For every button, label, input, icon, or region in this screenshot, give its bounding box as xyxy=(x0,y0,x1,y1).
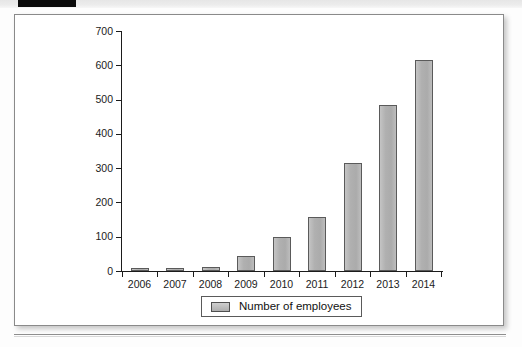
y-axis-tick-label-text: 600 xyxy=(73,60,113,71)
x-axis-tick-label: 2007 xyxy=(155,279,195,290)
y-axis-tick xyxy=(116,271,121,272)
y-axis-tick-label-text: 300 xyxy=(73,163,113,174)
y-axis-tick-label: 300 xyxy=(67,163,113,174)
y-axis-tick-label: 0 xyxy=(67,266,113,277)
x-axis-tick-label: 2013 xyxy=(368,279,408,290)
bar xyxy=(202,267,220,271)
y-axis-tick-label-text: 0 xyxy=(73,266,113,277)
x-axis-tick-label: 2009 xyxy=(226,279,266,290)
x-axis-tick xyxy=(228,272,229,277)
bar xyxy=(273,237,291,271)
x-axis-tick xyxy=(335,272,336,277)
y-axis-tick xyxy=(116,100,121,101)
x-axis-tick-label: 2011 xyxy=(297,279,337,290)
x-axis-tick xyxy=(122,272,123,277)
bar xyxy=(166,268,184,271)
x-axis-tick xyxy=(264,272,265,277)
y-axis-tick-label: 400 xyxy=(67,128,113,139)
bar xyxy=(131,268,149,271)
x-axis-tick-label: 2008 xyxy=(191,279,231,290)
y-axis-tick xyxy=(116,134,121,135)
y-axis-tick-label-text: 500 xyxy=(73,94,113,105)
x-axis-tick xyxy=(193,272,194,277)
x-axis-tick-label: 2012 xyxy=(333,279,373,290)
page-footer-rule-shadow xyxy=(14,336,506,337)
y-axis-tick-label: 700 xyxy=(67,26,113,37)
bar xyxy=(379,105,397,271)
x-axis-tick xyxy=(299,272,300,277)
x-axis-tick xyxy=(441,272,442,277)
x-axis-tick-label: 2014 xyxy=(404,279,444,290)
y-axis-tick-label-text: 200 xyxy=(73,197,113,208)
y-axis-tick xyxy=(116,168,121,169)
x-axis-tick xyxy=(157,272,158,277)
bar xyxy=(415,60,433,271)
y-axis-tick-label-text: 400 xyxy=(73,128,113,139)
x-axis-line xyxy=(121,271,443,272)
chart-frame: 0100200300400500600700 20062007200820092… xyxy=(14,14,504,326)
x-axis-tick-label: 2010 xyxy=(262,279,302,290)
y-axis-line xyxy=(121,31,122,272)
bar xyxy=(308,217,326,271)
y-axis-tick-label-text: 700 xyxy=(73,26,113,37)
y-axis-tick xyxy=(116,237,121,238)
page-footer-rule xyxy=(14,334,506,335)
y-axis-tick-label-text: 100 xyxy=(73,231,113,242)
scan-black-marker xyxy=(18,0,76,7)
legend-label-number-of-employees: Number of employees xyxy=(239,301,352,313)
bar-chart-plot-area: 0100200300400500600700 20062007200820092… xyxy=(15,15,505,327)
x-axis-tick-label: 2006 xyxy=(120,279,160,290)
y-axis-tick-label: 500 xyxy=(67,94,113,105)
chart-legend: Number of employees xyxy=(201,296,362,317)
y-axis-tick xyxy=(116,31,121,32)
legend-swatch-icon xyxy=(211,302,230,312)
x-axis-tick xyxy=(370,272,371,277)
scan-top-band xyxy=(0,0,522,8)
y-axis-tick xyxy=(116,65,121,66)
y-axis-tick-label: 100 xyxy=(67,231,113,242)
x-axis-tick xyxy=(406,272,407,277)
y-axis-tick-label: 600 xyxy=(67,60,113,71)
bar xyxy=(344,163,362,271)
bar xyxy=(237,256,255,271)
y-axis-tick xyxy=(116,202,121,203)
y-axis-tick-label: 200 xyxy=(67,197,113,208)
